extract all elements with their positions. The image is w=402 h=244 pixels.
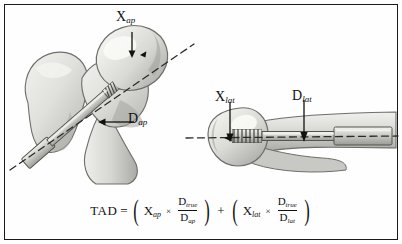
term1-numerator-sub: true <box>186 201 197 209</box>
label-x-lat: Xlat <box>215 88 235 105</box>
figure-container: Xap Dap <box>0 0 402 244</box>
tad-formula: TAD = ( Xap × Dtrue Dap ) + ( Xlat × Dtr… <box>0 196 402 225</box>
tad-term-1: Xap × Dtrue Dap <box>144 196 200 225</box>
term2-numerator-sub: true <box>286 201 297 209</box>
label-x-ap-sub: ap <box>126 15 135 25</box>
open-paren-2: ( <box>232 198 238 223</box>
term1-numerator: Dtrue <box>176 196 199 210</box>
tad-equals: = <box>120 203 127 219</box>
close-paren-1: ) <box>205 198 211 223</box>
term1-denominator-sub: ap <box>188 217 195 225</box>
close-paren-2: ) <box>304 198 310 223</box>
label-d-lat: Dlat <box>292 87 312 104</box>
tad-term-2: Xlat × Dtrue Dlat <box>243 196 299 225</box>
label-d-lat-base: D <box>292 88 302 103</box>
label-d-ap-sub: ap <box>138 117 147 127</box>
ap-view-panel <box>8 8 198 188</box>
label-d-lat-sub: lat <box>302 94 312 104</box>
open-paren-1: ( <box>133 198 139 223</box>
label-x-ap-base: X <box>116 9 126 24</box>
term1-numerator-base: D <box>178 195 186 207</box>
formula-plus: + <box>215 203 226 219</box>
label-x-lat-sub: lat <box>225 95 235 105</box>
term2-variable-base: X <box>243 203 252 218</box>
label-x-lat-base: X <box>215 89 225 104</box>
label-d-ap-base: D <box>128 111 138 126</box>
term2-variable-sub: lat <box>252 210 260 219</box>
label-x-ap: Xap <box>116 8 135 25</box>
term2-numerator-base: D <box>278 195 286 207</box>
screw-threads-lateral <box>232 129 262 143</box>
label-d-ap: Dap <box>128 110 147 127</box>
term2-denominator-sub: lat <box>288 217 295 225</box>
term2-fraction: Dtrue Dlat <box>276 196 299 225</box>
term2-times: × <box>265 206 272 216</box>
term2-numerator: Dtrue <box>276 196 299 210</box>
term1-variable: Xap <box>144 203 161 219</box>
tad-equation: TAD = ( Xap × Dtrue Dap ) + ( Xlat × Dtr… <box>90 196 312 225</box>
tad-lhs: TAD <box>90 203 117 219</box>
term1-times: × <box>165 206 172 216</box>
term1-variable-sub: ap <box>153 210 161 219</box>
term2-variable: Xlat <box>243 203 261 219</box>
term2-denominator: Dlat <box>278 210 297 225</box>
term1-fraction: Dtrue Dap <box>176 196 199 225</box>
term1-variable-base: X <box>144 203 153 218</box>
term2-denominator-base: D <box>280 211 288 223</box>
ap-view-illustration <box>8 8 198 188</box>
term1-denominator: Dap <box>178 210 197 225</box>
